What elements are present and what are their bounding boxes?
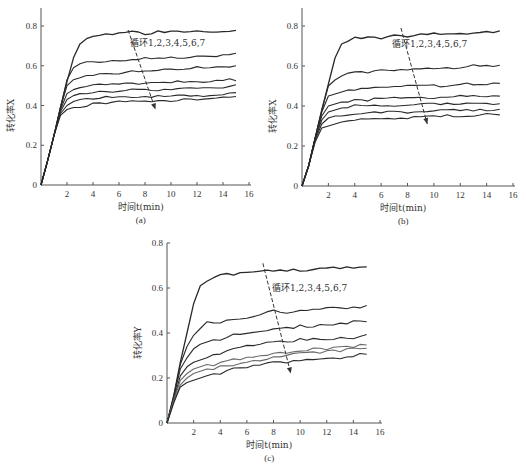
- y-tick-label: 0.4: [287, 101, 299, 111]
- x-tick-label: 14: [482, 190, 492, 200]
- y-tick-label: 0: [294, 181, 299, 191]
- y-tick-label: 0.6: [152, 283, 164, 293]
- chart-panel-a: 24681012141600.20.40.60.8时间t(min)转化率X(a)…: [5, 8, 254, 225]
- x-tick-label: 16: [376, 427, 386, 437]
- y-tick-label: 0.4: [152, 328, 164, 338]
- x-axis-label: 时间t(min): [118, 201, 164, 212]
- series-line-cycle-3: [41, 66, 236, 185]
- x-tick-label: 2: [65, 189, 70, 199]
- x-tick-label: 16: [509, 190, 519, 200]
- series-line-cycle-7: [167, 354, 367, 424]
- series-line-cycle-4: [41, 79, 236, 185]
- y-tick-label: 0.6: [287, 61, 299, 71]
- x-tick-label: 8: [143, 189, 148, 199]
- chart-panel-b: 24681012141600.20.40.60.8时间t(min)转化率X(b)…: [267, 8, 518, 226]
- x-axis-label: 时间t(min): [246, 439, 292, 450]
- y-tick-label: 0.6: [26, 61, 38, 71]
- series-line-cycle-6: [167, 348, 367, 423]
- x-tick-label: 10: [296, 427, 306, 437]
- series-line-cycle-7: [41, 97, 236, 186]
- x-tick-label: 12: [456, 190, 465, 200]
- figure: 24681012141600.20.40.60.8时间t(min)转化率X(a)…: [0, 0, 526, 475]
- x-tick-label: 8: [405, 190, 410, 200]
- x-tick-label: 6: [117, 189, 122, 199]
- arrow-head-icon: [151, 103, 156, 110]
- y-tick-label: 0.2: [152, 373, 163, 383]
- y-tick-label: 0.2: [26, 140, 37, 150]
- series-line-cycle-5: [302, 103, 500, 186]
- y-tick-label: 0.4: [26, 101, 38, 111]
- y-tick-label: 0.2: [287, 141, 298, 151]
- x-tick-label: 16: [245, 189, 255, 199]
- series-line-cycle-2: [167, 305, 367, 423]
- x-tick-label: 4: [218, 427, 223, 437]
- chart-caption: (b): [398, 216, 409, 226]
- x-tick-label: 12: [322, 427, 331, 437]
- series-line-cycle-5: [41, 85, 236, 185]
- cycle-annotation: 循环1,2,3,4,5,6,7: [272, 282, 348, 293]
- x-tick-label: 10: [167, 189, 177, 199]
- series-line-cycle-6: [302, 109, 500, 186]
- x-tick-label: 14: [349, 427, 359, 437]
- y-tick-label: 0.8: [26, 21, 38, 31]
- y-tick-label: 0.8: [287, 21, 299, 31]
- x-tick-label: 2: [326, 190, 331, 200]
- series-line-cycle-5: [167, 344, 367, 423]
- arrow-head-icon: [287, 367, 292, 373]
- y-tick-label: 0.8: [152, 238, 164, 248]
- x-tick-label: 2: [191, 427, 196, 437]
- x-tick-label: 4: [353, 190, 358, 200]
- y-tick-label: 0: [33, 180, 38, 190]
- y-axis-label: 转化率X: [5, 98, 16, 132]
- x-axis-label: 时间t(min): [380, 202, 426, 213]
- x-tick-label: 14: [219, 189, 229, 199]
- arrow-head-icon: [423, 118, 428, 124]
- series-line-cycle-1: [41, 30, 236, 185]
- y-tick-label: 0: [159, 418, 164, 428]
- x-tick-label: 6: [245, 427, 250, 437]
- y-axis-label: 转化率Y: [132, 325, 143, 359]
- series-line-cycle-7: [302, 114, 500, 187]
- chart-panel-c: 24681012141600.20.40.60.8时间t(min)转化率Y(c)…: [132, 238, 385, 463]
- chart-caption: (c): [264, 453, 274, 463]
- x-tick-label: 6: [379, 190, 384, 200]
- series-line-cycle-6: [41, 93, 236, 185]
- y-axis-label: 转化率X: [267, 99, 278, 133]
- chart-caption: (a): [136, 215, 146, 225]
- cycle-annotation: 循环1,2,3,4,5,6,7: [130, 37, 206, 48]
- series-line-cycle-2: [41, 53, 236, 185]
- x-tick-label: 4: [91, 189, 96, 199]
- cycle-annotation: 循环1,2,3,4,5,6,7: [392, 38, 468, 49]
- series-line-cycle-1: [302, 31, 500, 186]
- x-tick-label: 12: [193, 189, 202, 199]
- x-tick-label: 10: [429, 190, 439, 200]
- series-line-cycle-4: [302, 95, 500, 186]
- x-tick-label: 8: [271, 427, 276, 437]
